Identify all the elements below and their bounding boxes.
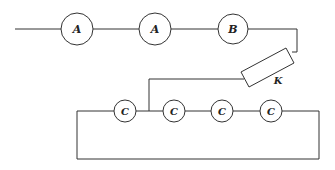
label-c4: C (267, 106, 275, 117)
label-a1: A (72, 23, 82, 36)
label-c2: C (170, 106, 178, 117)
component-b: B (218, 14, 248, 44)
label-c3: C (218, 106, 226, 117)
component-c1: C (114, 100, 136, 122)
label-a2: A (150, 23, 160, 36)
component-c3: C (211, 100, 233, 122)
component-a1: A (61, 13, 93, 45)
label-c1: C (121, 106, 129, 117)
label-k: K (273, 75, 284, 86)
resistor-k-icon (241, 48, 294, 87)
loop-wire (77, 111, 319, 159)
component-c4: C (260, 100, 282, 122)
component-k: K (241, 48, 294, 87)
circuit-diagram: A A B K C C C C (0, 0, 335, 170)
component-c2: C (163, 100, 185, 122)
wire-b-k (248, 29, 297, 52)
component-a2: A (139, 13, 171, 45)
label-b: B (227, 23, 237, 36)
